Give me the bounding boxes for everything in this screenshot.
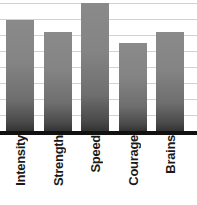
category-label-slot: Intensity: [6, 135, 34, 205]
bar-courage[interactable]: [119, 43, 147, 131]
category-label-brains: Brains: [164, 135, 177, 174]
plot-area: [0, 0, 197, 131]
category-label-slot: Strength: [44, 135, 72, 205]
bars-layer: [0, 0, 197, 131]
category-label-slot: Speed: [81, 135, 109, 205]
category-labels: IntensityStrengthSpeedCourageBrains: [0, 135, 197, 205]
category-label-intensity: Intensity: [14, 135, 27, 186]
bar-strength[interactable]: [44, 32, 72, 131]
category-label-speed: Speed: [89, 135, 102, 173]
bar-chart: IntensityStrengthSpeedCourageBrains: [0, 0, 197, 205]
bar-intensity[interactable]: [6, 20, 34, 131]
category-label-slot: Brains: [156, 135, 184, 205]
category-label-strength: Strength: [52, 135, 65, 186]
bar-speed[interactable]: [81, 3, 109, 131]
category-label-courage: Courage: [127, 135, 140, 186]
bar-brains[interactable]: [156, 32, 184, 131]
category-label-slot: Courage: [119, 135, 147, 205]
